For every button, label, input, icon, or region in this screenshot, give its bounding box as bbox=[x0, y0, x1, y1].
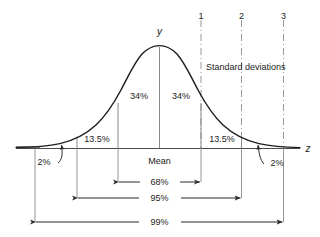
sd-guide-lines-right bbox=[201, 20, 284, 149]
left-tail-pointer bbox=[58, 145, 62, 163]
figure-canvas: y z 1 2 3 Standard deviations 34% 34% 13… bbox=[0, 0, 320, 237]
y-axis-label: y bbox=[157, 27, 162, 37]
region-label-left-tail: 2% bbox=[37, 158, 50, 167]
region-label-right-tail: 2% bbox=[270, 159, 283, 168]
z-axis bbox=[16, 147, 300, 149]
span-label-99: 99% bbox=[150, 218, 168, 227]
standard-deviations-annotation: Standard deviations bbox=[206, 63, 286, 72]
region-label-left-outer: 13.5% bbox=[84, 135, 110, 144]
region-label-left-inner: 34% bbox=[130, 92, 148, 101]
region-label-right-inner: 34% bbox=[172, 92, 190, 101]
mean-label: Mean bbox=[148, 157, 171, 166]
sd-tick-2: 2 bbox=[239, 12, 244, 21]
z-axis-label: z bbox=[306, 144, 311, 154]
span-label-95: 95% bbox=[150, 194, 168, 203]
right-tail-pointer bbox=[258, 145, 264, 164]
sd-tick-1: 1 bbox=[198, 12, 203, 21]
sd-tick-3: 3 bbox=[281, 12, 286, 21]
span-label-68: 68% bbox=[150, 178, 168, 187]
region-label-right-outer: 13.5% bbox=[209, 135, 235, 144]
